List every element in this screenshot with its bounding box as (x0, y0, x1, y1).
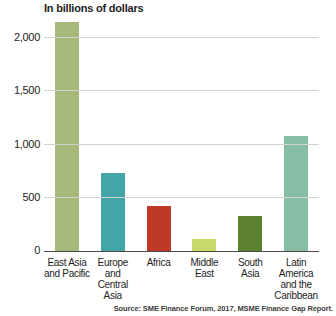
y-tick-label: 1,000 (0, 139, 40, 150)
source-note: Source: SME Finance Forum, 2017, MSME Fi… (114, 304, 333, 313)
y-tick-label: 2,000 (0, 32, 40, 43)
category-label: Latin America and the Caribbean (273, 257, 319, 301)
bar-slot (136, 17, 182, 251)
bar (55, 22, 79, 251)
gridline (44, 144, 319, 145)
x-axis-labels: East Asia and PacificEurope and Central … (44, 257, 319, 301)
bar-slot (227, 17, 273, 251)
plot-area (44, 17, 319, 252)
chart-title: In billions of dollars (44, 2, 144, 14)
bar-slot (44, 17, 90, 251)
bar-slot (90, 17, 136, 251)
bars-container (44, 17, 319, 251)
y-tick-label: 1,500 (0, 85, 40, 96)
category-label: Africa (136, 257, 182, 301)
category-label: South Asia (227, 257, 273, 301)
y-tick-label: 0 (0, 245, 40, 256)
y-tick-label: 500 (0, 192, 40, 203)
bar (101, 173, 125, 251)
bar-slot (273, 17, 319, 251)
bar (192, 239, 216, 251)
gridline (44, 37, 319, 38)
category-label: Middle East (181, 257, 227, 301)
bar-chart-figure: In billions of dollars 05001,0001,5002,0… (0, 0, 336, 316)
category-label: Europe and Central Asia (90, 257, 136, 301)
gridline (44, 197, 319, 198)
y-axis-labels: 05001,0001,5002,000 (0, 17, 40, 251)
bar (238, 216, 262, 251)
bar (147, 206, 171, 251)
gridline (44, 90, 319, 91)
bar (284, 136, 308, 251)
bar-slot (181, 17, 227, 251)
category-label: East Asia and Pacific (44, 257, 90, 301)
